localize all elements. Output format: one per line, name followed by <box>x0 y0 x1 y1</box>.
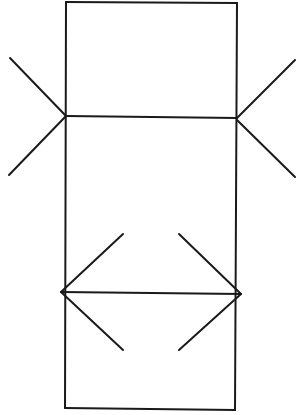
frame-top-line <box>66 2 237 3</box>
illusion-figure <box>0 0 301 415</box>
lower-right-arrow-top <box>179 234 241 294</box>
upper-right-fin-top <box>237 60 295 118</box>
lower-left-arrow-top <box>61 234 123 292</box>
lower-right-arrow-bottom <box>179 294 241 350</box>
frame-bottom-line <box>65 408 235 410</box>
upper-right-fin-bottom <box>237 120 295 177</box>
upper-segment-line <box>66 116 237 118</box>
frame-left-line <box>65 2 66 408</box>
lower-left-arrow-bottom <box>61 292 123 350</box>
upper-left-fin-bottom <box>9 116 66 175</box>
upper-left-fin-top <box>10 58 66 116</box>
lower-segment-line <box>61 292 241 294</box>
frame-right-line <box>235 3 237 410</box>
